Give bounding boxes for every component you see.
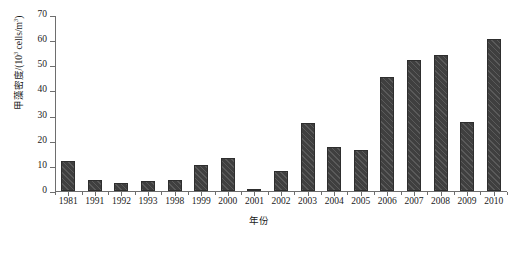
- x-axis-tick-label: 2007: [401, 196, 428, 206]
- x-axis-tick-label: 2006: [374, 196, 401, 206]
- y-axis-tick: 70: [50, 16, 55, 17]
- bar: [194, 165, 208, 191]
- x-axis-tick-label: 2001: [241, 196, 268, 206]
- y-axis-tick-label: 50: [38, 59, 48, 69]
- x-axis-tick-label: 1991: [82, 196, 109, 206]
- bar: [247, 189, 261, 192]
- x-axis-tick-label: 2002: [268, 196, 295, 206]
- bar: [407, 60, 421, 191]
- x-axis-tick-label: 1998: [161, 196, 188, 206]
- x-axis-tick-label: 1981: [55, 196, 82, 206]
- bar: [460, 122, 474, 191]
- x-axis-title: 年份: [0, 213, 517, 227]
- y-axis-tick: 10: [50, 167, 55, 168]
- x-axis-minor-tick: [268, 192, 269, 195]
- y-axis-tick-label: 10: [38, 160, 48, 170]
- bar: [301, 123, 315, 191]
- x-axis-tick-label: 2005: [347, 196, 374, 206]
- y-axis-tick-label: 70: [38, 9, 48, 19]
- bar: [114, 183, 128, 191]
- x-axis-minor-tick: [294, 192, 295, 195]
- bar: [380, 77, 394, 191]
- y-axis-title-close: ): [14, 16, 24, 19]
- y-axis-tick: 60: [50, 41, 55, 42]
- bar: [487, 39, 501, 191]
- x-axis-minor-tick: [321, 192, 322, 195]
- x-axis-minor-tick: [427, 192, 428, 195]
- y-axis-title-exponent2: 3: [12, 19, 19, 22]
- x-axis-minor-tick: [188, 192, 189, 195]
- y-axis-tick-label: 0: [42, 185, 47, 195]
- bar: [88, 180, 102, 191]
- bar: [141, 181, 155, 191]
- y-axis-tick: 40: [50, 91, 55, 92]
- bar: [434, 55, 448, 191]
- x-axis-minor-tick: [507, 192, 508, 195]
- y-axis-tick: 30: [50, 117, 55, 118]
- bar: [61, 161, 75, 191]
- x-axis-minor-tick: [480, 192, 481, 195]
- y-axis-title: 甲藻密度/(103 cells/m3): [11, 0, 25, 143]
- x-axis-tick-label: 1992: [108, 196, 135, 206]
- x-axis-minor-tick: [55, 192, 56, 195]
- y-axis-title-exponent: 3: [12, 52, 19, 55]
- y-axis-line: [55, 16, 56, 193]
- y-axis-title-unit: cells/m: [14, 22, 24, 52]
- y-axis-tick-label: 60: [38, 34, 48, 44]
- bar-chart: 甲藻密度/(103 cells/m3) 010203040506070 年份 1…: [0, 0, 517, 255]
- x-axis-minor-tick: [108, 192, 109, 195]
- x-axis-tick-label: 2008: [427, 196, 454, 206]
- plot-area: 010203040506070: [55, 16, 507, 192]
- bar: [354, 150, 368, 191]
- x-axis-minor-tick: [135, 192, 136, 195]
- x-axis-minor-tick: [374, 192, 375, 195]
- x-axis-tick-label: 2000: [215, 196, 242, 206]
- y-axis-tick-label: 20: [38, 135, 48, 145]
- x-axis-tick-label: 1999: [188, 196, 215, 206]
- x-axis-minor-tick: [82, 192, 83, 195]
- x-axis-tick-label: 2010: [480, 196, 507, 206]
- y-axis-tick: 50: [50, 66, 55, 67]
- y-axis-tick-label: 40: [38, 84, 48, 94]
- x-axis-minor-tick: [241, 192, 242, 195]
- bar: [274, 171, 288, 191]
- x-axis-minor-tick: [454, 192, 455, 195]
- x-axis-minor-tick: [161, 192, 162, 195]
- y-axis-title-prefix: 甲藻密度/(10: [14, 55, 24, 110]
- y-axis-tick-label: 30: [38, 110, 48, 120]
- x-axis-minor-tick: [215, 192, 216, 195]
- x-axis-minor-tick: [347, 192, 348, 195]
- bar: [221, 158, 235, 191]
- x-axis-minor-tick: [401, 192, 402, 195]
- bar: [168, 180, 182, 191]
- x-axis-tick-label: 2003: [294, 196, 321, 206]
- x-axis-tick-label: 1993: [135, 196, 162, 206]
- y-axis-tick: 20: [50, 142, 55, 143]
- x-axis-tick-label: 2004: [321, 196, 348, 206]
- bar: [327, 147, 341, 191]
- x-axis-tick-label: 2009: [454, 196, 481, 206]
